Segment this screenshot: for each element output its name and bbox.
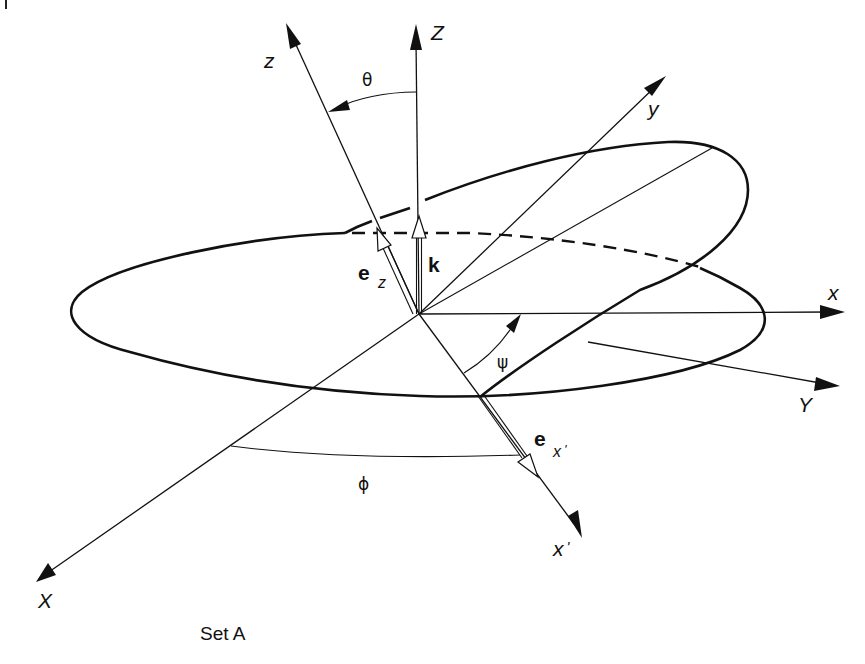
angle-psi: ψ xyxy=(464,314,521,373)
angle-label-psi: ψ xyxy=(497,352,508,372)
tilted-ellipse xyxy=(345,142,748,397)
arrowhead-icon xyxy=(506,314,521,333)
axis-x: x xyxy=(419,281,845,319)
axis-label-x: x xyxy=(827,281,840,304)
axis-label-z: z xyxy=(263,49,275,72)
axis-z: z xyxy=(263,23,419,314)
vector-label-k: k xyxy=(428,253,440,276)
angle-theta: θ xyxy=(328,70,416,112)
axis-label-X: X xyxy=(37,589,53,612)
arrowhead-icon xyxy=(644,76,666,96)
axis-label-Z: Z xyxy=(430,21,445,44)
angle-phi: ϕ xyxy=(231,446,520,494)
arrowhead-icon xyxy=(410,24,422,50)
arrowhead-icon xyxy=(36,563,56,582)
arrowhead-icon xyxy=(328,100,350,112)
arrowhead-icon xyxy=(568,510,582,538)
axis-label-Y: Y xyxy=(798,393,814,416)
hollow-arrowhead-icon xyxy=(412,216,426,238)
figure-caption: Set A xyxy=(200,623,246,644)
axis-label-x-prime: x' xyxy=(552,537,571,560)
arrowhead-icon xyxy=(820,305,845,319)
axis-label-y: y xyxy=(646,97,660,120)
vector-subscript-x-prime: x' xyxy=(552,442,567,460)
angle-label-theta: θ xyxy=(362,70,372,90)
axis-X: X xyxy=(36,314,419,612)
axis-x-prime: x' xyxy=(419,314,582,560)
euler-angle-diagram: Z z y x Y X x' k xyxy=(0,0,865,664)
vector-e-z: e z xyxy=(358,228,418,314)
vector-label-e: e xyxy=(534,427,546,450)
vector-label-e: e xyxy=(358,261,370,284)
arrowhead-icon xyxy=(286,23,301,49)
vector-e-x-prime: e x' xyxy=(478,394,567,477)
arrowhead-icon xyxy=(814,377,840,391)
angle-label-phi: ϕ xyxy=(358,474,369,494)
axis-Y: Y xyxy=(588,342,840,416)
vector-subscript-z: z xyxy=(377,274,386,291)
vector-k: k xyxy=(412,216,440,314)
